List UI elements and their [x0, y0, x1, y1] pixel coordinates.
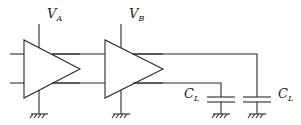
label-vb: VB: [129, 6, 144, 23]
capacitor-2: [243, 97, 271, 114]
amp-b-output-wires: [133, 54, 257, 97]
label-va: VA: [47, 6, 62, 23]
ground-icon: [212, 114, 230, 118]
amp-a-inputs: [10, 54, 24, 83]
ground-icon: [112, 114, 130, 118]
circuit-diagram: VA VB CL CL: [0, 0, 301, 125]
ground-icon: [248, 114, 266, 118]
ground-icon: [30, 114, 48, 118]
amplifier-b: [105, 40, 163, 98]
amplifier-a: [24, 40, 80, 98]
label-cl-1: CL: [184, 86, 199, 103]
capacitor-1: [207, 97, 235, 114]
label-cl-2: CL: [278, 86, 293, 103]
